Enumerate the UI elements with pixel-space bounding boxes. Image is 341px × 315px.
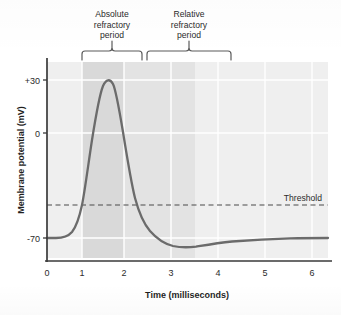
chart-svg: Threshold +30 0 -70 0 1 2 3 4 5 6 Time (…: [0, 0, 341, 315]
action-potential-figure: Threshold +30 0 -70 0 1 2 3 4 5 6 Time (…: [0, 0, 341, 315]
relative-refractory-label-line3: period: [177, 30, 201, 40]
y-tick-label-30: +30: [25, 76, 40, 86]
threshold-label: Threshold: [284, 193, 322, 203]
y-axis-title: Membrane potential (mV): [16, 106, 26, 214]
y-tick-label-minus70: -70: [27, 234, 40, 244]
x-tick-label-0: 0: [44, 268, 49, 278]
x-axis-title: Time (milliseconds): [145, 290, 229, 300]
relative-refractory-band: [124, 62, 195, 258]
absolute-refractory-label-line3: period: [100, 30, 124, 40]
relative-refractory-label-line1: Relative: [173, 9, 204, 19]
relative-refractory-bracket: [147, 41, 231, 60]
absolute-refractory-label-line2: refractory: [94, 20, 131, 30]
x-tick-label-5: 5: [262, 268, 267, 278]
absolute-refractory-label-line1: Absolute: [95, 9, 129, 19]
relative-refractory-label-line2: refractory: [171, 20, 208, 30]
x-tick-label-6: 6: [309, 268, 314, 278]
x-tick-label-2: 2: [121, 268, 126, 278]
x-tick-label-1: 1: [79, 268, 84, 278]
y-tick-label-0: 0: [35, 129, 40, 139]
x-tick-label-4: 4: [215, 268, 220, 278]
absolute-refractory-bracket: [82, 41, 142, 60]
x-tick-label-3: 3: [168, 268, 173, 278]
